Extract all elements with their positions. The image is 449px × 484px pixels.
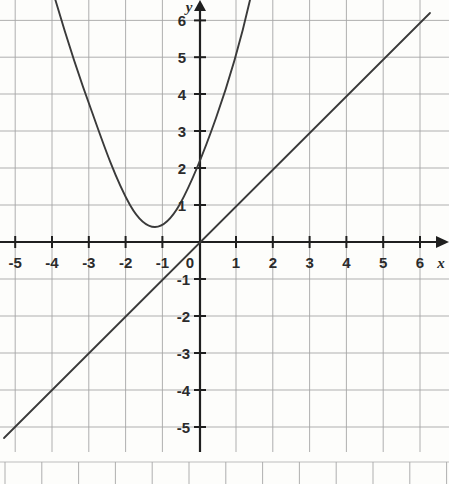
y-tick-label: -3 bbox=[177, 345, 190, 362]
y-tick-label: 2 bbox=[178, 160, 186, 177]
origin-label: 0 bbox=[186, 254, 194, 271]
y-axis-label: y bbox=[184, 0, 193, 15]
x-tick-label: 6 bbox=[416, 254, 424, 271]
x-tick-label: -5 bbox=[9, 254, 22, 271]
y-tick-label: -4 bbox=[177, 382, 191, 399]
x-tick-label: -1 bbox=[156, 254, 169, 271]
y-tick-label: 5 bbox=[178, 49, 186, 66]
x-tick-label: -3 bbox=[82, 254, 95, 271]
x-tick-label: 2 bbox=[269, 254, 277, 271]
graph-figure: -5 -4 -3 -2 -1 0 1 2 3 4 5 6 6 5 4 3 2 1… bbox=[0, 0, 449, 484]
y-tick-label: -2 bbox=[177, 308, 190, 325]
coordinate-plane: -5 -4 -3 -2 -1 0 1 2 3 4 5 6 6 5 4 3 2 1… bbox=[0, 0, 449, 484]
x-tick-label: -2 bbox=[119, 254, 132, 271]
bottom-page-strip bbox=[0, 452, 449, 484]
x-tick-label: -4 bbox=[45, 254, 59, 271]
x-tick-label: 4 bbox=[342, 254, 351, 271]
y-tick-label: 4 bbox=[178, 86, 187, 103]
x-tick-label: 1 bbox=[232, 254, 240, 271]
y-tick-label: -5 bbox=[177, 419, 190, 436]
x-axis-label: x bbox=[436, 255, 445, 271]
y-tick-label: -1 bbox=[177, 271, 190, 288]
y-tick-label: 1 bbox=[178, 197, 186, 214]
y-tick-label: 3 bbox=[178, 123, 186, 140]
x-tick-label: 5 bbox=[379, 254, 387, 271]
x-tick-label: 3 bbox=[305, 254, 313, 271]
